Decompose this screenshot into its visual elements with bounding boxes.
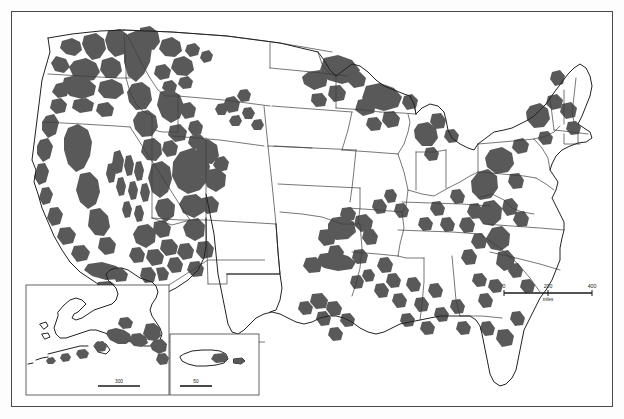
us-distribution-map: 300 50 [12,12,614,408]
puerto-rico-scale-label: 50 [193,379,199,384]
scale-tick-start: 0 [503,283,506,289]
scale-tick-mid: 200 [544,283,553,289]
scale-tick-end: 400 [588,283,597,289]
puerto-rico-inset: 50 [170,334,259,395]
map-screenshot: 300 50 [0,0,624,419]
map-frame: 300 50 [11,11,613,407]
scale-unit-label: miles [543,297,554,302]
alaska-scale-label: 300 [115,379,123,384]
main-scale-bar: 0 200 400 miles [503,283,597,302]
